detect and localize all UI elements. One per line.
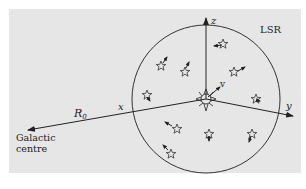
- galactic-centre-label-line1: Galactic: [16, 132, 55, 143]
- r0-label: R0: [73, 107, 87, 121]
- velocity-arrow: [208, 87, 220, 97]
- x-axis-label: x: [118, 101, 124, 112]
- star-icon: [204, 129, 214, 141]
- galactic-centre-label-line2: centre: [16, 143, 47, 154]
- star-icon: [180, 62, 190, 76]
- lsr-label: LSR: [260, 24, 281, 35]
- lsr-diagram: z LSR v y x R0 Galactic centre: [0, 0, 306, 189]
- star-icon: [142, 90, 152, 101]
- star-icon: [156, 57, 167, 70]
- star-icon: [247, 129, 257, 142]
- star-icon: [229, 67, 245, 76]
- star-icon: [163, 145, 176, 158]
- star-icon: [165, 122, 182, 133]
- star-icon: [251, 94, 261, 103]
- y-axis-label: y: [285, 100, 292, 111]
- z-axis-label: z: [210, 15, 217, 26]
- star-icon: [214, 39, 228, 48]
- x-axis-r0-line: [28, 99, 206, 130]
- velocity-label: v: [219, 79, 226, 89]
